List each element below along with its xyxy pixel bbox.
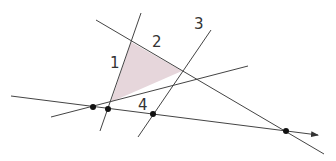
point-4: [283, 128, 289, 134]
shaded-triangle: [111, 42, 182, 102]
point-2: [105, 106, 111, 112]
label-4: 4: [138, 96, 148, 114]
point-3: [150, 111, 156, 117]
point-1: [90, 104, 96, 110]
label-1: 1: [110, 54, 120, 72]
label-3: 3: [194, 15, 204, 33]
diagram-canvas: 1 2 3 4: [0, 0, 336, 161]
label-2: 2: [152, 33, 162, 51]
